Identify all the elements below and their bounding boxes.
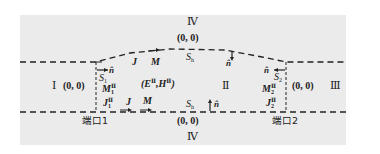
current-j-bottom: J [126, 97, 131, 107]
coord-right: (0, 0) [292, 81, 314, 91]
surface-sh-top-label: Sh [186, 52, 194, 63]
coord-top: (0, 0) [177, 33, 199, 43]
region-4-top-label: Ⅳ [187, 16, 198, 27]
surface-sh-bottom-label: Sh [186, 99, 194, 110]
current-m-bottom: M [143, 96, 152, 106]
region-3-label: Ⅲ [330, 80, 341, 91]
current-j-top: J [132, 57, 137, 67]
region-1-label: Ⅰ [52, 80, 56, 91]
coord-bottom: (0, 0) [177, 116, 199, 126]
region-2-label: Ⅱ [222, 80, 229, 91]
surface-s2-label: S2 [274, 72, 282, 83]
normal-n-right: n̂ [264, 66, 269, 75]
normal-n-left: n̂ [109, 66, 114, 75]
normal-n-top: n̂ [226, 59, 231, 68]
coord-left: (0, 0) [63, 81, 85, 91]
current-j2: JⅡ2 [266, 97, 274, 109]
region-2-fields: (EⅡ,HⅡ) [141, 78, 175, 89]
port-2-label: 端口2 [272, 116, 298, 126]
current-m-top: M [151, 57, 160, 67]
normal-n-bottom: n̂ [214, 100, 219, 109]
current-j1: JⅡ1 [103, 97, 111, 109]
current-m2: MⅡ2 [262, 83, 274, 95]
current-m1: MⅡ1 [102, 83, 114, 95]
top-boundary-sh [20, 49, 346, 62]
port-1-label: 端口1 [82, 116, 108, 126]
region-4-bottom-label: Ⅳ [187, 131, 198, 142]
